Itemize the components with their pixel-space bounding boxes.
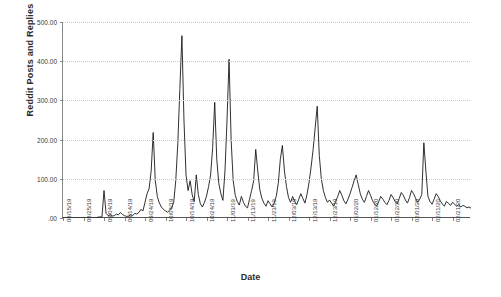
x-tick-mark bbox=[432, 218, 433, 221]
y-tick-label: 100.00 bbox=[17, 175, 57, 182]
x-tick-label: 11/13/19 bbox=[250, 199, 256, 222]
chart-figure: Reddit Posts and Replies 500.00400.00300… bbox=[0, 0, 501, 297]
plot-area: 500.00400.00300.00200.00100.00.0008/15/1… bbox=[62, 22, 470, 218]
x-tick-mark bbox=[166, 218, 167, 221]
x-tick-label: 12/13/19 bbox=[312, 199, 318, 222]
x-tick-label: 08/25/19 bbox=[86, 199, 92, 222]
x-tick-label: 11/03/19 bbox=[230, 199, 236, 222]
y-tick-mark bbox=[60, 100, 63, 101]
x-tick-mark bbox=[391, 218, 392, 221]
y-tick-label: 300.00 bbox=[17, 97, 57, 104]
x-axis-title: Date bbox=[0, 272, 501, 282]
x-tick-label: 10/04/19 bbox=[168, 199, 174, 222]
x-tick-mark bbox=[186, 218, 187, 221]
x-tick-label: 02/21/20 bbox=[455, 199, 461, 222]
y-gridline bbox=[63, 179, 470, 180]
x-tick-label: 02/01/20 bbox=[414, 199, 420, 222]
x-tick-mark bbox=[453, 218, 454, 221]
y-tick-label: 200.00 bbox=[17, 136, 57, 143]
x-tick-label: 01/12/20 bbox=[373, 199, 379, 222]
x-tick-mark bbox=[227, 218, 228, 221]
y-tick-label: .00 bbox=[17, 215, 57, 222]
x-tick-mark bbox=[330, 218, 331, 221]
x-tick-label: 09/24/19 bbox=[148, 199, 154, 222]
x-tick-mark bbox=[268, 218, 269, 221]
x-tick-mark bbox=[125, 218, 126, 221]
y-gridline bbox=[63, 140, 470, 141]
y-tick-mark bbox=[60, 22, 63, 23]
x-tick-label: 11/23/19 bbox=[271, 199, 277, 222]
y-tick-mark bbox=[60, 61, 63, 62]
x-tick-label: 01/22/20 bbox=[394, 199, 400, 222]
x-tick-mark bbox=[309, 218, 310, 221]
y-tick-mark bbox=[60, 179, 63, 180]
x-tick-mark bbox=[350, 218, 351, 221]
x-tick-label: 01/02/20 bbox=[353, 199, 359, 222]
x-tick-label: 02/11/20 bbox=[435, 199, 441, 222]
x-tick-label: 09/04/19 bbox=[107, 199, 113, 222]
x-tick-mark bbox=[371, 218, 372, 221]
x-tick-mark bbox=[289, 218, 290, 221]
x-tick-mark bbox=[412, 218, 413, 221]
x-tick-mark bbox=[84, 218, 85, 221]
x-tick-mark bbox=[248, 218, 249, 221]
y-tick-label: 400.00 bbox=[17, 58, 57, 65]
x-tick-mark bbox=[207, 218, 208, 221]
y-tick-label: 500.00 bbox=[17, 19, 57, 26]
x-tick-label: 08/15/19 bbox=[66, 199, 72, 222]
x-tick-mark bbox=[63, 218, 64, 221]
x-tick-label: 09/14/19 bbox=[127, 199, 133, 222]
y-gridline bbox=[63, 61, 470, 62]
y-gridline bbox=[63, 22, 470, 23]
x-tick-label: 10/14/19 bbox=[189, 199, 195, 222]
x-tick-mark bbox=[104, 218, 105, 221]
line-series bbox=[63, 22, 471, 218]
x-tick-mark bbox=[145, 218, 146, 221]
y-tick-mark bbox=[60, 140, 63, 141]
x-tick-label: 12/23/19 bbox=[332, 199, 338, 222]
x-tick-label: 12/03/19 bbox=[291, 199, 297, 222]
y-gridline bbox=[63, 100, 470, 101]
x-tick-label: 10/24/19 bbox=[209, 199, 215, 222]
